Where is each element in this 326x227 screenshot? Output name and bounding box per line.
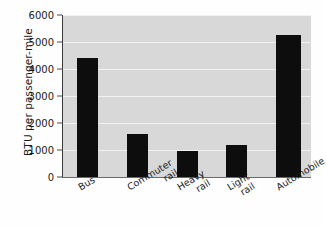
bar: [276, 35, 301, 177]
bar: [177, 151, 198, 177]
bar: [77, 58, 98, 177]
bar: [226, 145, 247, 177]
y-tick-mark: [57, 69, 62, 70]
gridline: [63, 69, 311, 70]
y-tick-mark: [57, 42, 62, 43]
y-tick-mark: [57, 150, 62, 151]
y-tick-mark: [57, 96, 62, 97]
x-axis-line: [62, 177, 311, 178]
plot-area: [63, 15, 311, 177]
gridline: [63, 96, 311, 97]
y-axis-title: BTU per passenger-mile: [22, 12, 34, 172]
y-tick-label: 0: [18, 172, 54, 183]
gridline: [63, 42, 311, 43]
y-tick-mark: [57, 123, 62, 124]
y-tick-mark: [57, 15, 62, 16]
y-tick-mark: [57, 177, 62, 178]
bar: [127, 134, 148, 177]
gridline: [63, 123, 311, 124]
y-axis-tick-marks: [57, 15, 63, 177]
gridline: [63, 15, 311, 16]
